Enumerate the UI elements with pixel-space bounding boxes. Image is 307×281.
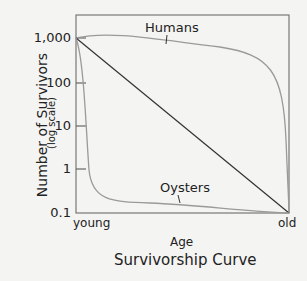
y-tick-1: 1 (63, 162, 71, 175)
x-tick-old: old (278, 217, 296, 229)
chart-title: Survivorship Curve (114, 253, 257, 268)
x-tick-young: young (73, 217, 110, 229)
y-axis-note: (log scale) (47, 63, 57, 183)
y-tick-0-1: 0.1 (50, 206, 71, 219)
oysters-pointer (178, 195, 180, 203)
humans-label: Humans (145, 21, 199, 34)
x-axis-label: Age (170, 236, 193, 248)
humans-pointer (166, 35, 167, 44)
oysters-label: Oysters (160, 181, 210, 194)
